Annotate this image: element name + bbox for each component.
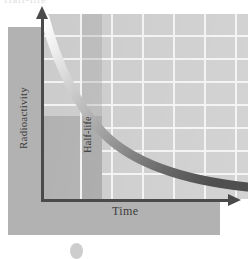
y-axis-label: Radioactivity: [17, 78, 29, 158]
top-clipped-caption: Half-life: [4, 0, 124, 5]
x-axis-line: [41, 199, 231, 202]
x-axis-label: Time: [112, 204, 139, 219]
x-axis-arrow-icon: [228, 194, 241, 206]
y-axis-line: [41, 18, 44, 202]
decay-curve: [42, 14, 248, 199]
y-axis-arrow-icon: [36, 6, 48, 19]
watermark-icon: [70, 243, 83, 259]
plot-area: [42, 14, 248, 199]
decay-curve-path: [45, 18, 247, 187]
halflife-annotation-label: Half-life: [82, 105, 93, 165]
